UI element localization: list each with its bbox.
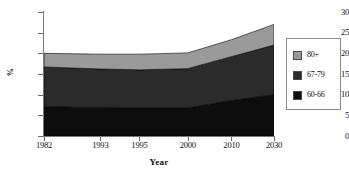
plot-area	[44, 12, 274, 136]
area-series-group	[44, 12, 274, 136]
legend-label: 60-66	[307, 91, 325, 99]
y-tick-label: 25	[313, 28, 349, 37]
legend-swatch-icon	[293, 51, 302, 60]
x-axis-title: Year	[44, 157, 274, 167]
y-tick	[38, 115, 43, 116]
legend-label: 67-79	[307, 71, 325, 79]
y-axis-title: %	[6, 66, 15, 80]
legend-label: 80+	[307, 51, 319, 59]
x-tick-label: 2030	[251, 141, 297, 150]
y-tick	[38, 136, 43, 137]
y-tick	[38, 95, 43, 96]
y-tick	[38, 74, 43, 75]
legend-item[interactable]: 67-79	[293, 65, 340, 85]
legend: 80+67-7960-66	[286, 38, 341, 110]
y-tick-label: 5	[313, 111, 349, 120]
y-tick	[38, 53, 43, 54]
x-tick-label: 2000	[165, 141, 211, 150]
legend-swatch-icon	[293, 91, 302, 100]
x-tick-label: 2010	[208, 141, 254, 150]
y-tick	[38, 33, 43, 34]
legend-item[interactable]: 60-66	[293, 85, 340, 105]
x-tick-label: 1982	[21, 141, 67, 150]
x-axis-line	[43, 136, 275, 137]
legend-swatch-icon	[293, 71, 302, 80]
stacked-area-chart: % 051015202530 198219931995200020102030 …	[0, 0, 349, 177]
legend-item[interactable]: 80+	[293, 45, 340, 65]
y-tick-label: 30	[313, 8, 349, 17]
y-tick	[38, 12, 43, 13]
x-tick-label: 1995	[116, 141, 162, 150]
y-tick-label: 0	[313, 132, 349, 141]
